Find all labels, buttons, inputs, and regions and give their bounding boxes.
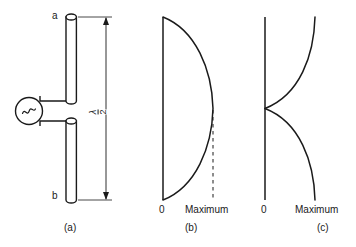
- panel-a-dipole-antenna: a b λ 2 (a): [0, 0, 150, 247]
- terminal-label-a: a: [52, 11, 58, 21]
- ac-source-symbol: [16, 98, 43, 125]
- dipole-lower-element: [66, 118, 76, 203]
- dipole-upper-element: [66, 14, 76, 104]
- voltage-distribution-curve-upper: [265, 17, 315, 109]
- panel-b-current-distribution: 0 Maximum (b): [150, 0, 255, 247]
- antenna-figure: a b λ 2 (a) 0 Maximum (b): [0, 0, 356, 247]
- panel-a-caption: (a): [64, 223, 76, 233]
- panel-c-zero-label: 0: [261, 205, 267, 215]
- voltage-distribution-curve-lower: [265, 109, 315, 201]
- current-distribution-curve: [163, 17, 213, 200]
- feed-line-lower: [40, 121, 66, 126]
- lambda-half-label: λ 2: [88, 109, 110, 114]
- panel-c-voltage-distribution: 0 Maximum (c): [255, 0, 356, 247]
- lambda-denominator: 2: [98, 109, 108, 114]
- panel-c-caption: (c): [317, 223, 329, 233]
- panel-b-zero-label: 0: [159, 205, 165, 215]
- lambda-numerator: λ: [89, 109, 98, 114]
- panel-b-maximum-label: Maximum: [185, 205, 228, 215]
- feed-line-upper: [40, 96, 66, 101]
- panel-b-caption: (b): [185, 223, 197, 233]
- terminal-label-b: b: [52, 191, 58, 201]
- dipole-antenna-drawing: [0, 0, 150, 247]
- panel-c-maximum-label: Maximum: [295, 205, 338, 215]
